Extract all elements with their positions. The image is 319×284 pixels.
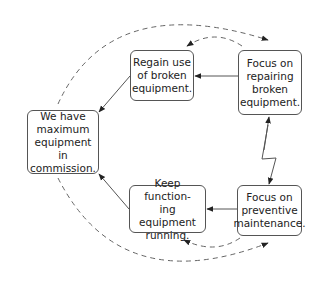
node-keep: Keep function- ing equipment running. [129,185,206,233]
node-goal-line: equipment in [30,136,96,162]
node-preventive-line: maintenance. [233,217,305,230]
node-regain: Regain use of broken equipment. [130,50,194,101]
arrow-keep-to-goal [99,174,129,209]
lightning-arrow-up [264,117,269,150]
node-keep-line: ing equipment [132,203,203,229]
node-repair: Focus on repairing broken equipment. [238,50,302,115]
node-preventive-line: Focus on [233,191,305,204]
node-repair-line: broken [240,83,300,96]
node-preventive: Focus on preventive maintenance. [237,185,302,236]
node-keep-line: running. [132,229,203,242]
lightning-arrow [262,125,276,184]
node-goal-line: We have [30,110,96,123]
node-goal-line: commission. [30,162,96,175]
dashed-arc-repair-to-regain [187,37,242,46]
node-repair-line: Focus on [240,57,300,70]
node-repair-line: repairing [240,70,300,83]
node-preventive-line: preventive [233,204,305,217]
node-goal-line: maximum [30,123,96,136]
arrow-regain-to-goal [99,76,130,112]
node-goal: We have maximum equipment in commission. [27,110,99,174]
node-regain-line: of broken [132,69,192,82]
node-regain-line: equipment. [132,82,192,95]
node-keep-line: Keep function- [132,177,203,203]
node-regain-line: Regain use [132,56,192,69]
node-repair-line: equipment. [240,96,300,109]
